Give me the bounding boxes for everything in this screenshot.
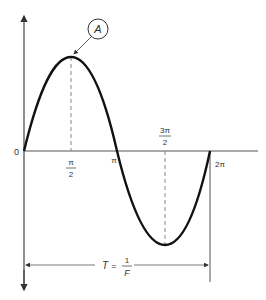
period-lhs: T xyxy=(102,260,109,271)
callout-label: A xyxy=(93,23,101,35)
period-eq: = xyxy=(111,261,116,271)
origin-label: 0 xyxy=(14,147,19,157)
tick-pi: π xyxy=(111,156,117,165)
period-num: 1 xyxy=(125,256,130,265)
callout-arrow xyxy=(74,37,91,54)
tick-pi-over-2-den: 2 xyxy=(69,170,74,179)
tick-2pi: 2π xyxy=(215,160,225,169)
sine-wave-diagram: A 0 π 2 π 3π 2 2π T = 1 F xyxy=(0,0,266,300)
tick-3pi-over-2-num: 3π xyxy=(160,126,170,135)
tick-pi-over-2-num: π xyxy=(68,158,74,167)
period-den: F xyxy=(124,268,130,278)
tick-3pi-over-2-den: 2 xyxy=(163,138,168,147)
